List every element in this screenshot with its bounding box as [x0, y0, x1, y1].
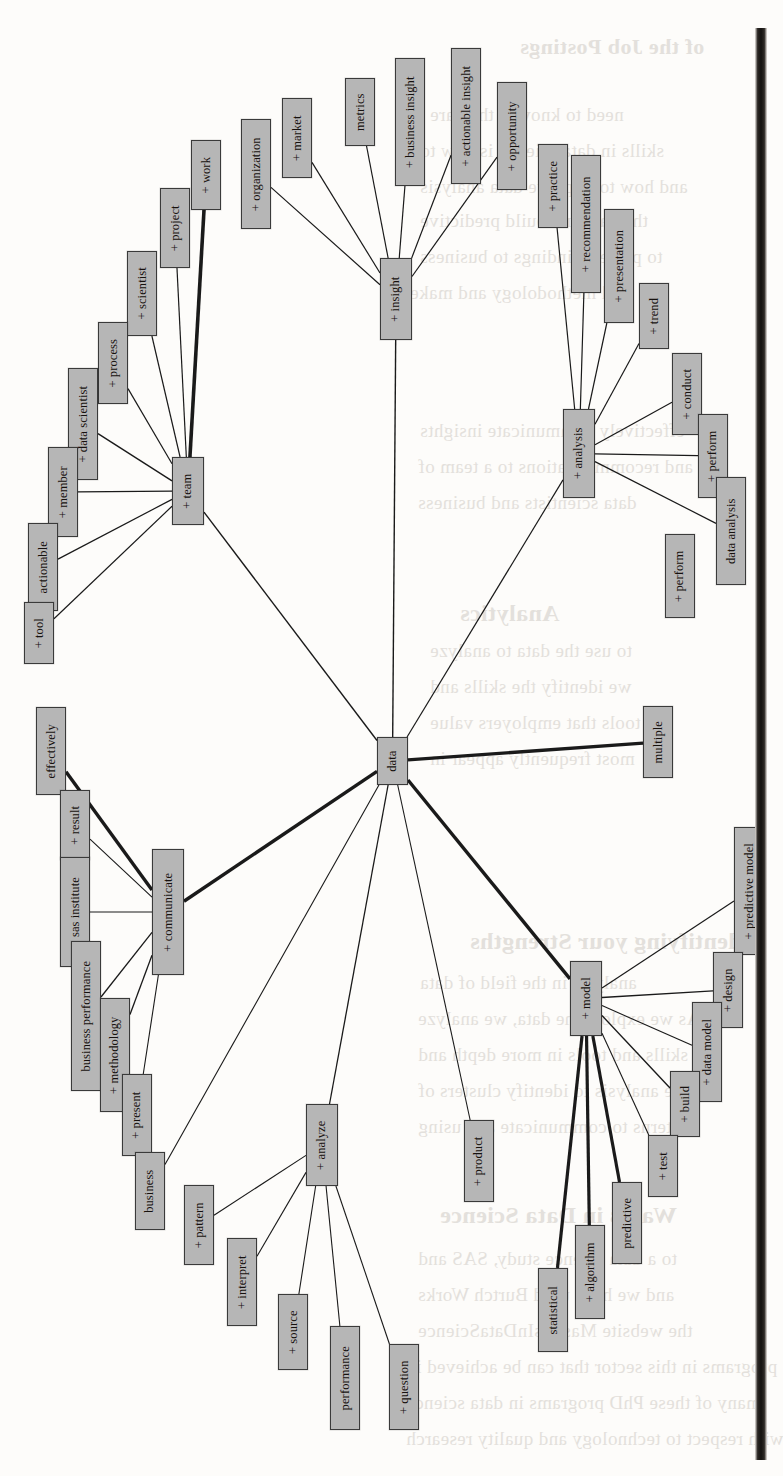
graph-node-label: + build: [679, 1086, 692, 1123]
graph-node-statistical[interactable]: statistical: [538, 1268, 568, 1352]
graph-node-result[interactable]: + result: [60, 790, 90, 860]
graph-node-project[interactable]: + project: [160, 188, 190, 268]
graph-node-label: + design: [722, 968, 735, 1012]
graph-edge: [595, 402, 672, 444]
graph-node-organization[interactable]: + organization: [241, 119, 271, 229]
graph-node-practice[interactable]: + practice: [538, 144, 568, 228]
graph-node-label: + business insight: [404, 76, 417, 168]
graph-node-insight[interactable]: + insight: [380, 258, 412, 340]
graph-edge: [595, 454, 698, 456]
graph-node-label: + practice: [547, 161, 560, 212]
graph-node-algorithm[interactable]: + algorithm: [575, 1225, 605, 1319]
graph-node-label: + data model: [701, 1019, 714, 1086]
graph-node-opportunity[interactable]: + opportunity: [497, 82, 527, 190]
graph-node-label: + present: [131, 1091, 144, 1138]
graph-node-label: statistical: [547, 1286, 560, 1334]
graph-node-question[interactable]: + question: [389, 1344, 419, 1430]
graph-node-effectively[interactable]: effectively: [36, 707, 66, 795]
graph-node-recommendation[interactable]: + recommendation: [571, 155, 601, 293]
graph-node-perform2[interactable]: + perform: [665, 534, 695, 618]
graph-edge: [143, 975, 158, 1074]
graph-edge: [595, 344, 639, 425]
graph-node-label: multiple: [652, 721, 665, 763]
graph-edge: [78, 491, 172, 492]
graph-node-business[interactable]: business: [135, 1152, 165, 1230]
graph-node-performance[interactable]: performance: [330, 1326, 360, 1430]
graph-node-label: + source: [287, 1310, 300, 1354]
graph-node-team[interactable]: + team: [172, 457, 204, 525]
graph-node-business-insight[interactable]: + business insight: [395, 58, 425, 186]
graph-node-label: + organization: [250, 137, 263, 211]
graph-node-trend[interactable]: + trend: [639, 283, 669, 349]
graph-node-label: + communicate: [162, 873, 175, 952]
graph-node-label: business: [144, 1169, 157, 1212]
graph-edge: [367, 146, 389, 258]
graph-node-data-analysis[interactable]: data analysis: [716, 477, 746, 585]
graph-edge: [602, 1016, 670, 1088]
graph-edge: [326, 1186, 340, 1326]
graph-edge: [177, 268, 186, 457]
graph-node-label: + tool: [33, 618, 46, 648]
graph-edge: [130, 955, 152, 1014]
graph-node-label: + question: [398, 1360, 411, 1414]
graph-node-label: + insight: [390, 276, 403, 321]
graph-node-pattern[interactable]: + pattern: [184, 1185, 214, 1265]
graph-node-analysis[interactable]: + analysis: [563, 409, 595, 498]
graph-node-product[interactable]: + product: [464, 1120, 494, 1202]
graph-node-scientist[interactable]: + scientist: [127, 251, 157, 336]
graph-node-model[interactable]: + model: [570, 961, 602, 1036]
graph-node-label: + algorithm: [584, 1242, 597, 1302]
graph-node-multiple[interactable]: multiple: [643, 706, 673, 778]
graph-edge: [271, 187, 380, 284]
graph-node-market[interactable]: + market: [282, 98, 312, 178]
graph-node-label: + project: [169, 205, 182, 251]
page-gutter-shadow: [755, 28, 767, 1460]
graph-node-test[interactable]: + test: [648, 1135, 678, 1197]
graph-edge: [312, 162, 380, 273]
graph-edge: [152, 336, 180, 457]
graph-node-analyze[interactable]: + analyze: [306, 1104, 338, 1186]
graph-node-label: actionable: [37, 541, 50, 593]
graph-node-interpret[interactable]: + interpret: [227, 1238, 257, 1326]
graph-node-business-performance[interactable]: business performance: [71, 941, 101, 1091]
graph-node-actionable-insight[interactable]: + actionable insight: [451, 48, 481, 184]
graph-node-process[interactable]: + process: [98, 322, 128, 404]
graph-node-data[interactable]: data: [377, 737, 408, 785]
graph-node-present[interactable]: + present: [122, 1074, 152, 1156]
graph-node-label: + interpret: [236, 1255, 249, 1309]
graph-edge: [299, 1186, 316, 1294]
graph-node-label: + analysis: [573, 428, 586, 479]
graph-node-label: business performance: [80, 961, 93, 1072]
graph-node-tool[interactable]: + tool: [24, 602, 54, 664]
graph-edge: [101, 932, 152, 997]
graph-node-predictive[interactable]: predictive: [612, 1182, 642, 1264]
graph-node-source[interactable]: + source: [278, 1294, 308, 1370]
graph-edge: [602, 991, 713, 998]
graph-edge: [408, 743, 643, 760]
graph-edge: [330, 785, 389, 1104]
graph-node-presentation[interactable]: + presentation: [604, 209, 634, 323]
graph-node-metrics[interactable]: metrics: [345, 78, 375, 146]
graph-edge: [407, 480, 563, 737]
graph-node-label: + product: [473, 1136, 486, 1185]
graph-node-build[interactable]: + build: [670, 1071, 700, 1137]
graph-node-label: + perform: [674, 550, 687, 601]
graph-edge: [190, 210, 204, 457]
graph-node-label: + sas institute: [69, 877, 82, 947]
graph-node-label: + pattern: [193, 1202, 206, 1248]
graph-node-actionable[interactable]: actionable: [28, 523, 58, 611]
graph-node-label: + model: [580, 977, 593, 1019]
graph-node-label: + market: [291, 115, 304, 161]
graph-node-work[interactable]: + work: [191, 140, 221, 210]
graph-edge: [98, 434, 172, 481]
graph-node-label: + predictive model: [743, 843, 756, 939]
graph-node-label: + member: [57, 466, 70, 518]
graph-node-label: + methodology: [109, 1016, 122, 1093]
graph-edge: [408, 780, 570, 979]
graph-node-label: + data scientist: [77, 386, 90, 463]
graph-edge: [336, 1186, 390, 1344]
graph-node-label: + result: [69, 806, 82, 845]
graph-node-label: performance: [339, 1346, 352, 1410]
graph-node-communicate[interactable]: + communicate: [152, 849, 184, 975]
graph-node-label: + conduct: [681, 369, 694, 420]
